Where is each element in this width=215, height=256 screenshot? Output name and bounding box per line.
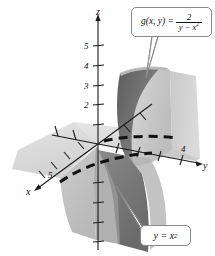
callout-function-formula: g(x, y) = 2 y − x2 [131,7,212,37]
tick-label-z-3: 3 [84,81,89,91]
plot-canvas [0,0,215,256]
formula-lhs: g(x, y) = [141,17,174,27]
tick-label-z-5: 5 [84,41,89,51]
denominator-base: y − x [179,22,197,32]
parabola-base: y = x [153,231,174,241]
tick-label-z-2: 2 [84,100,89,110]
tick-label-y-4: 4 [181,144,186,154]
axis-label-x: x [26,186,30,197]
tick-label-z-4: 4 [84,61,89,71]
surface-plot-figure: z y x 5 4 3 2 4 5 g(x, y) = 2 y − x2 y =… [0,0,215,256]
tick-label-x-5: 5 [48,170,53,180]
axis-label-z: z [96,6,100,17]
denominator-exponent: 2 [196,21,199,27]
formula-fraction: 2 y − x2 [176,13,202,32]
parabola-expression: y = x2 [153,231,177,241]
fraction-numerator: 2 [185,13,193,22]
axis-label-y: y [203,160,207,171]
fraction-denominator: y − x2 [177,23,201,32]
formula-expression: g(x, y) = 2 y − x2 [141,13,202,32]
callout-domain-boundary: y = x2 [140,225,191,246]
